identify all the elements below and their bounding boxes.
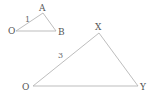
edge-ab <box>43 13 56 31</box>
vertex-label-a: A <box>38 3 46 13</box>
side-label-oa: 1 <box>25 15 30 24</box>
edge-ox <box>33 33 99 86</box>
large-triangle: O X Y 3 <box>22 22 147 92</box>
vertex-label-b: B <box>58 27 65 37</box>
small-triangle: O A B 1 <box>8 3 65 37</box>
side-label-ox: 3 <box>58 51 63 60</box>
vertex-label-x: X <box>95 22 102 32</box>
edge-xy <box>99 33 138 86</box>
vertex-label-o-small: O <box>8 26 15 36</box>
similar-triangles-diagram: O A B 1 O X Y 3 <box>0 0 150 101</box>
vertex-label-o-large: O <box>22 82 29 92</box>
vertex-label-y: Y <box>139 82 147 92</box>
